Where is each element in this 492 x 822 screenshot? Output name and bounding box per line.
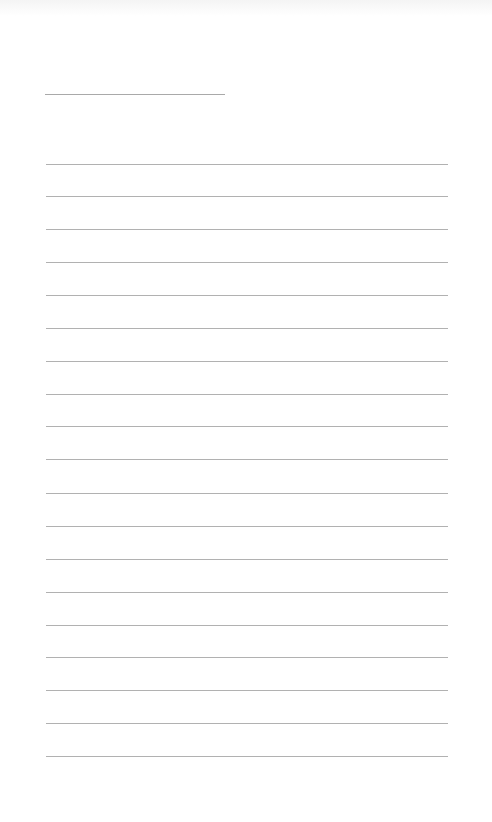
ruled-line — [46, 493, 448, 494]
ruled-line — [46, 361, 448, 362]
title-line — [45, 94, 225, 95]
ruled-line — [46, 526, 448, 527]
ruled-line — [46, 690, 448, 691]
ruled-line — [46, 657, 448, 658]
faint-show-through-area — [0, 0, 492, 16]
ruled-line — [46, 262, 448, 263]
ruled-line — [46, 295, 448, 296]
ruled-paper-page — [0, 0, 492, 822]
ruled-line — [46, 559, 448, 560]
ruled-line — [46, 328, 448, 329]
ruled-line — [46, 723, 448, 724]
ruled-line — [46, 592, 448, 593]
ruled-line — [46, 164, 448, 165]
ruled-line — [46, 229, 448, 230]
ruled-line — [46, 196, 448, 197]
ruled-line — [46, 394, 448, 395]
ruled-line — [46, 756, 448, 757]
ruled-line — [46, 459, 448, 460]
ruled-line — [46, 625, 448, 626]
ruled-line — [46, 426, 448, 427]
